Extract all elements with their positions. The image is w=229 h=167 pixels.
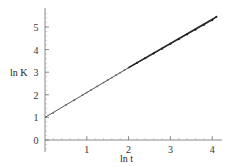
data-point bbox=[119, 72, 121, 74]
y-tick-label: 4 bbox=[34, 45, 39, 56]
data-point bbox=[96, 86, 98, 88]
tick-labels: 0123451234 bbox=[34, 22, 215, 155]
data-point bbox=[111, 77, 113, 79]
data-point bbox=[86, 92, 88, 94]
data-point bbox=[73, 99, 75, 101]
x-tick-label: 4 bbox=[210, 144, 215, 155]
data-point bbox=[107, 79, 109, 81]
x-tick-label: 3 bbox=[168, 144, 173, 155]
data-point bbox=[115, 74, 117, 76]
data-series bbox=[45, 16, 217, 118]
data-point bbox=[103, 82, 105, 84]
data-point bbox=[90, 89, 92, 91]
y-axis-label: ln K bbox=[10, 67, 28, 78]
y-tick-label: 1 bbox=[34, 112, 39, 123]
data-point bbox=[82, 94, 84, 96]
data-point bbox=[124, 69, 126, 71]
y-tick-label: 5 bbox=[34, 22, 39, 33]
y-tick-label: 0 bbox=[34, 135, 39, 146]
dense-data-overlay bbox=[129, 17, 217, 68]
x-axis-label: ln t bbox=[120, 153, 133, 164]
data-point bbox=[65, 104, 67, 106]
data-point bbox=[52, 112, 54, 114]
chart-plot: 0123451234 ln K ln t bbox=[0, 0, 229, 167]
y-tick-label: 3 bbox=[34, 67, 39, 78]
y-tick-label: 2 bbox=[34, 90, 39, 101]
x-tick-label: 1 bbox=[84, 144, 89, 155]
major-ticks bbox=[45, 27, 212, 140]
